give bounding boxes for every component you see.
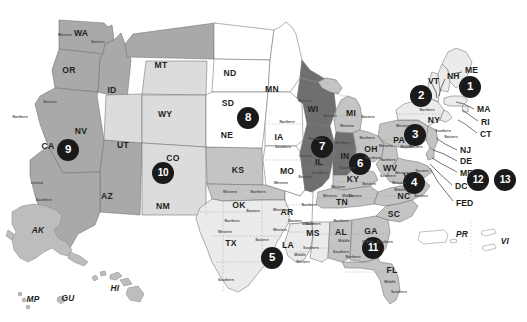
district-sublabel-southern-5: Southern (36, 198, 52, 202)
district-sublabel-middle-24: Middle (294, 253, 305, 257)
district-sublabel-middle-27: Middle (338, 239, 349, 243)
district-sublabel-southern-23: Southern (303, 246, 319, 250)
circuit-badge-10[interactable]: 10 (152, 162, 174, 184)
district-sublabel-western-13: Western (273, 208, 287, 212)
district-sublabel-middle-30: Middle (362, 240, 373, 244)
edge-label-md: MD (460, 168, 473, 178)
district-sublabel-eastern-46: Eastern (362, 182, 375, 186)
district-sublabel-eastern-21: Eastern (246, 209, 259, 213)
circuit-badge-1[interactable]: 1 (459, 76, 481, 98)
district-sublabel-western-19: Western (223, 190, 237, 194)
district-sublabel-northern-20: Northern (250, 190, 265, 194)
circuit-11-region (328, 216, 400, 304)
map-geometry (0, 0, 527, 322)
judicial-circuits-map: 12345678910111213 WAORIDMTNDSDNEMNWYNVCA… (0, 0, 527, 322)
edge-label-ct: CT (480, 129, 491, 139)
circuit-badge-9[interactable]: 9 (57, 139, 79, 161)
district-sublabel-middle-48: Middle (342, 194, 353, 198)
district-sublabel-southern-44: Southern (365, 156, 381, 160)
district-sublabel-northern-26: Northern (333, 219, 348, 223)
district-sublabel-northern-50: Northern (380, 158, 395, 162)
circuit-badge-8[interactable]: 8 (237, 107, 259, 129)
district-sublabel-western-52: Western (392, 181, 406, 185)
district-sublabel-western-12: Western (273, 228, 287, 232)
district-sublabel-southern-51: Southern (380, 174, 396, 178)
district-sublabel-western-0: Western (58, 33, 72, 37)
district-sublabel-eastern-9: Eastern (298, 175, 311, 179)
district-sublabel-northern-43: Northern (359, 136, 374, 140)
district-sublabel-southern-38: Southern (312, 171, 328, 175)
district-sublabel-northern-22: Northern (305, 222, 320, 226)
district-sublabel-eastern-35: Eastern (323, 114, 336, 118)
district-sublabel-southern-62: Southern (435, 129, 451, 133)
district-sublabel-eastern-56: Eastern (415, 169, 428, 173)
edge-label-vt: VT (428, 76, 439, 86)
district-sublabel-middle-59: Middle (400, 145, 411, 149)
district-sublabel-eastern-42: Eastern (361, 115, 374, 119)
edge-label-ma: MA (477, 104, 490, 114)
district-sublabel-northern-3: Northern (12, 115, 27, 119)
edge-label-fed: FED (456, 198, 473, 208)
edge-label-nh: NH (447, 71, 459, 81)
district-sublabel-western-60: Western (396, 124, 410, 128)
district-sublabel-southern-40: Southern (339, 166, 355, 170)
circuit-badge-4[interactable]: 4 (403, 172, 425, 194)
district-sublabel-northern-10: Northern (301, 203, 316, 207)
district-sublabel-eastern-63: Eastern (444, 135, 457, 139)
district-sublabel-western-55: Western (395, 171, 409, 175)
district-sublabel-eastern-2: Eastern (43, 100, 56, 104)
district-sublabel-western-34: Western (298, 99, 312, 103)
district-sublabel-southern-28: Southern (333, 250, 349, 254)
district-sublabel-northern-29: Northern (345, 255, 360, 259)
district-sublabel-western-57: Western (379, 144, 393, 148)
district-sublabel-middle-53: Middle (394, 188, 405, 192)
district-sublabel-western-45: Western (331, 185, 345, 189)
district-sublabel-southern-31: Southern (377, 240, 393, 244)
district-sublabel-eastern-25: Eastern (296, 260, 309, 264)
district-sublabel-eastern-54: Eastern (414, 194, 427, 198)
district-sublabel-eastern-1: Eastern (91, 40, 104, 44)
district-sublabel-middle-32: Middle (384, 280, 395, 284)
district-sublabel-southern-18: Southern (218, 278, 234, 282)
district-sublabel-central-4: Central (31, 181, 43, 185)
district-sublabel-western-49: Western (323, 194, 337, 198)
district-sublabel-western-8: Western (274, 181, 288, 185)
district-sublabel-northern-6: Northern (279, 120, 294, 124)
district-sublabel-eastern-17: Eastern (255, 238, 268, 242)
district-sublabel-western-41: Western (340, 124, 354, 128)
edge-label-dc: DC (455, 181, 467, 191)
district-sublabel-central-37: Central (299, 154, 311, 158)
district-sublabel-northern-36: Northern (308, 137, 323, 141)
district-sublabel-western-16: Western (218, 230, 232, 234)
edge-label-de: DE (460, 156, 472, 166)
district-sublabel-southern-33: Southern (391, 290, 407, 294)
district-sublabel-northern-15: Northern (224, 219, 239, 223)
district-sublabel-northern-61: Northern (419, 108, 434, 112)
district-sublabel-southern-7: Southern (275, 145, 291, 149)
district-sublabel-northern-39: Northern (335, 141, 350, 145)
circuit-badge-2[interactable]: 2 (410, 85, 432, 107)
edge-label-ri: RI (481, 117, 490, 127)
circuit-badge-13[interactable]: 13 (494, 169, 516, 191)
circuit-badge-5[interactable]: 5 (261, 247, 283, 269)
district-sublabel-eastern-11: Eastern (288, 219, 301, 223)
edge-label-nj: NJ (460, 145, 471, 155)
edge-label-me: ME (465, 65, 478, 75)
